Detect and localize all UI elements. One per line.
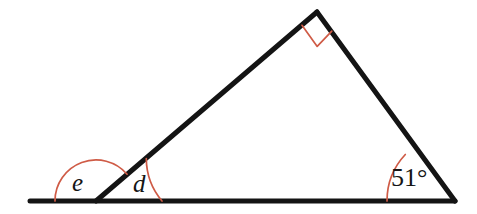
left-side-segment bbox=[96, 12, 317, 201]
angle-arc-d bbox=[146, 159, 162, 201]
angle-label-e: e bbox=[72, 170, 83, 195]
angle-label-51: 51° bbox=[391, 165, 427, 191]
angle-label-d: d bbox=[133, 171, 146, 196]
right-side-segment bbox=[317, 12, 455, 201]
geometry-figure: e d 51° bbox=[0, 0, 477, 214]
